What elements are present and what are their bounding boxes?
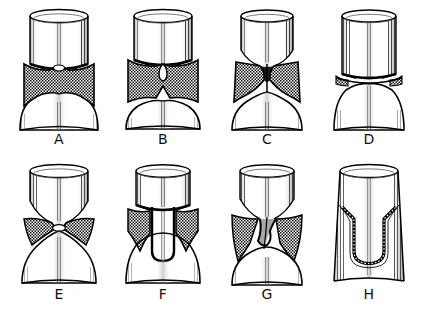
panel-d-art xyxy=(316,2,422,134)
panel-g: G xyxy=(214,157,320,311)
panel-label-h: H xyxy=(316,287,422,301)
panel-label-a: A xyxy=(6,132,112,146)
panel-label-e: E xyxy=(6,287,112,301)
panel-b-art xyxy=(110,2,216,134)
panel-a: A xyxy=(6,2,112,157)
panel-label-f: F xyxy=(110,287,216,301)
panel-h-art xyxy=(316,157,422,289)
panel-c-art xyxy=(214,2,320,134)
panel-label-g: G xyxy=(214,287,320,301)
panel-h: H xyxy=(316,157,422,311)
figure-root: A xyxy=(0,0,425,311)
panel-f-art xyxy=(110,157,216,289)
panel-label-b: B xyxy=(110,132,216,146)
panel-f: F xyxy=(110,157,216,311)
panel-e: E xyxy=(6,157,112,311)
panel-b: B xyxy=(110,2,216,157)
panel-label-c: C xyxy=(214,132,320,146)
panel-c: C xyxy=(214,2,320,157)
panel-d: D xyxy=(316,2,422,157)
panel-g-art xyxy=(214,157,320,289)
panel-a-art xyxy=(6,2,112,134)
panel-e-art xyxy=(6,157,112,289)
panel-label-d: D xyxy=(316,132,422,146)
